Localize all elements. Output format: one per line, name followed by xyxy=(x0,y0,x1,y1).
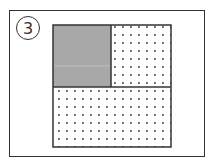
region-top-right-dotted xyxy=(111,25,171,87)
region-top-left-shaded xyxy=(53,25,111,87)
divided-square-diagram xyxy=(0,0,213,161)
region-bottom-dotted xyxy=(53,87,171,147)
